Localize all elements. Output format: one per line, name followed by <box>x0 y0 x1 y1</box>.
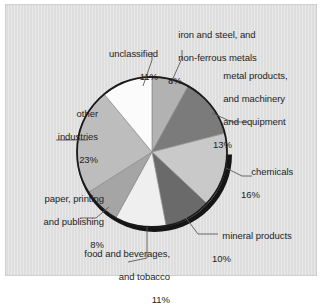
slice-label-paper-printing: paper, printing and publishing 8% <box>14 181 104 274</box>
slice-label-chemicals-percent: 16% <box>241 189 293 201</box>
slice-label-paper-printing-percent: 8% <box>14 239 104 251</box>
slice-label-metal-products-percent: 13% <box>213 139 288 151</box>
slice-label-chemicals: chemicals 16% <box>241 154 293 224</box>
slice-label-paper-printing-line1: paper, printing <box>45 193 104 204</box>
slice-label-mineral-products: mineral products 10% <box>212 218 292 288</box>
slice-label-other-industries-line2: industries <box>58 131 98 142</box>
slice-label-mineral-products-line1: mineral products <box>222 230 291 241</box>
slice-label-paper-printing-line2: and publishing <box>43 216 104 227</box>
slice-label-food-and-beverages-line2: and tobacco <box>119 271 170 282</box>
slice-label-metal-products-line2: and machinery <box>223 93 285 104</box>
slice-label-mineral-products-percent: 10% <box>212 253 292 265</box>
slice-label-chemicals-line1: chemicals <box>251 166 293 177</box>
slice-label-other-industries-percent: 23% <box>14 154 98 166</box>
slice-label-unclassified-line1: unclassified <box>109 48 158 59</box>
slice-label-other-industries: other industries 23% <box>14 96 98 189</box>
slice-label-metal-products-line3: and equipment <box>223 116 285 127</box>
slice-label-unclassified-percent: 11% <box>76 71 158 83</box>
slice-label-iron-and-steel-line1: iron and steel, and <box>178 29 255 40</box>
slice-label-other-industries-line1: other <box>77 108 98 119</box>
slice-label-food-and-beverages-percent: 11% <box>32 294 170 306</box>
slice-label-metal-products-line1: metal products, <box>223 70 287 81</box>
